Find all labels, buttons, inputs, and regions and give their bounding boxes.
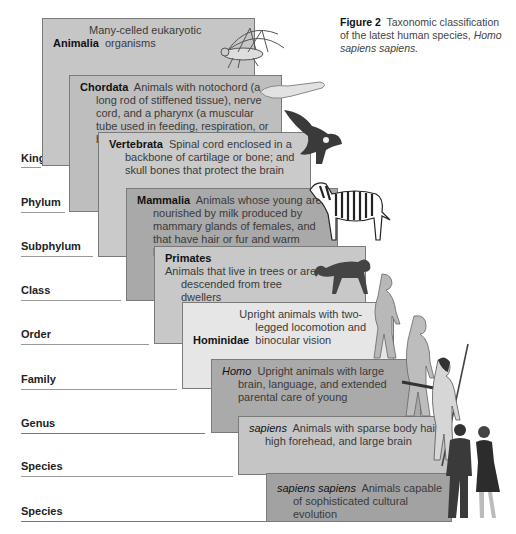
rank-line-family — [21, 389, 177, 390]
taxon-name: Chordata — [80, 81, 128, 93]
rank-label-class: Class — [21, 284, 50, 296]
taxon-name: sapiens — [249, 422, 287, 434]
rank-label-subphylum: Subphylum — [21, 240, 81, 252]
rank-label-phylum: Phylum — [21, 196, 61, 208]
figure-caption: Figure 2 Taxonomic classification of the… — [340, 16, 510, 55]
rank-line-phylum — [21, 212, 65, 213]
taxon-name: sapiens sapiens — [277, 482, 356, 494]
rank-label-species-2: Species — [21, 505, 63, 517]
eagle-icon — [282, 106, 344, 168]
taxon-desc: Upright animals with two-legged locomoti… — [255, 308, 375, 347]
taxon-box-sapiens-sapiens: sapiens sapiens Animals capable of sophi… — [266, 473, 452, 522]
rank-label-species-1: Species — [21, 460, 63, 472]
rank-line-order — [21, 344, 149, 345]
taxon-name: Primates — [165, 252, 211, 264]
rank-label-genus: Genus — [21, 417, 55, 429]
caption-label: Figure 2 — [340, 16, 381, 28]
rank-line-species-2 — [21, 521, 266, 522]
rank-line-kingdom — [21, 167, 41, 168]
taxon-desc: Many-celled eukaryotic organisms — [105, 24, 225, 50]
modern-humans-icon — [446, 420, 506, 524]
taxon-name: Hominidae — [193, 334, 249, 346]
rank-line-genus — [21, 433, 205, 434]
rank-line-class — [21, 300, 121, 301]
rank-label-order: Order — [21, 328, 51, 340]
monkey-icon — [312, 254, 374, 298]
rank-line-subphylum — [21, 256, 93, 257]
taxon-desc: Animals with sparse body hair, high fore… — [265, 422, 441, 447]
rank-line-species-1 — [21, 476, 233, 477]
taxon-name: Vertebrata — [109, 138, 163, 150]
early-hominid-icon — [370, 272, 402, 362]
lancelet-icon — [258, 80, 328, 102]
rank-label-family: Family — [21, 373, 56, 385]
taxon-name: Mammalia — [137, 194, 190, 206]
zebra-icon — [306, 178, 394, 244]
taxon-box-sapiens: sapiens Animals with sparse body hair, h… — [238, 416, 450, 475]
taxon-name: Animalia — [53, 37, 99, 49]
taxon-desc: Animals that live in trees or are descen… — [181, 265, 321, 304]
grasshopper-icon — [218, 22, 286, 72]
taxon-name: Homo — [222, 365, 251, 377]
taxon-desc: Upright animals with large brain, langua… — [238, 365, 387, 403]
